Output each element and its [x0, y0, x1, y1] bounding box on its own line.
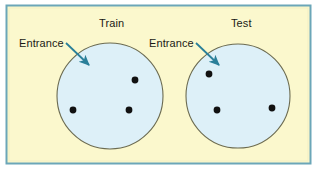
train-dot: [132, 77, 139, 84]
train-dot: [70, 107, 77, 114]
train-panel-title: Train: [99, 18, 124, 29]
train-circle: [57, 43, 163, 149]
test-dot: [269, 105, 276, 112]
test-dot: [206, 71, 213, 78]
train-entrance-label: Entrance: [19, 38, 64, 49]
diagram-canvas: [0, 0, 317, 170]
test-dot: [214, 107, 221, 114]
diagram-figure: Train Test Entrance Entrance: [0, 0, 317, 170]
test-entrance-label: Entrance: [149, 38, 194, 49]
test-panel-title: Test: [231, 18, 252, 29]
test-circle: [186, 44, 290, 148]
train-dot: [126, 107, 133, 114]
